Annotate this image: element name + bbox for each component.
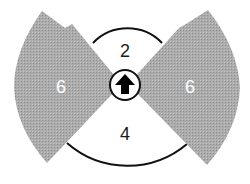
left-sector-label: 6 [56, 77, 66, 97]
right-sector-label: 6 [185, 77, 195, 97]
firing-arc-diagram: 2 4 6 6 [0, 0, 250, 184]
rear-arc-line [67, 143, 187, 166]
rear-sector-label: 4 [120, 124, 130, 144]
front-sector-label: 2 [120, 41, 130, 61]
